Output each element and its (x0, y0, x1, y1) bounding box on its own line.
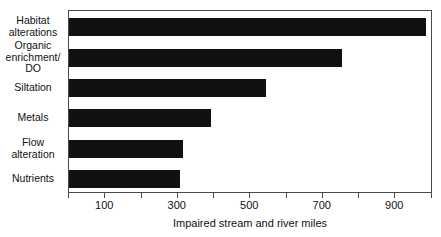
bar-nutrients (69, 170, 180, 188)
category-label-organic-enrichment-do: Organic enrichment/ DO (0, 40, 66, 75)
bar-organic-enrichment-do (69, 49, 342, 67)
x-axis-tick-label: 100 (84, 199, 124, 212)
x-axis-tick (68, 193, 69, 198)
x-axis-tick (213, 193, 214, 198)
x-axis-tick (358, 193, 359, 198)
x-axis-tick (322, 193, 323, 198)
x-axis-tick (431, 193, 432, 198)
x-axis-tick (141, 193, 142, 198)
category-label-habitat-alterations: Habitat alterations (0, 15, 66, 38)
bar-habitat-alterations (69, 18, 426, 36)
x-axis-title: Impaired stream and river miles (68, 217, 432, 230)
x-axis-tick (394, 193, 395, 198)
bar-chart: Habitat alterations Organic enrichment/ … (0, 0, 441, 237)
x-axis-tick-label: 700 (302, 199, 342, 212)
x-axis-tick (249, 193, 250, 198)
x-axis-tick (177, 193, 178, 198)
x-axis-tick-label: 900 (374, 199, 414, 212)
x-axis-tick-label: 300 (157, 199, 197, 212)
bar-flow-alteration (69, 140, 183, 158)
x-axis-tick-label: 500 (229, 199, 269, 212)
x-axis-tick (286, 193, 287, 198)
category-label-siltation: Siltation (0, 82, 66, 94)
category-label-flow-alteration: Flow alteration (0, 137, 66, 160)
x-axis-tick-labels: 100300500700900 (0, 199, 441, 215)
category-label-nutrients: Nutrients (0, 173, 66, 185)
bar-siltation (69, 79, 266, 97)
x-axis-tick (104, 193, 105, 198)
category-label-metals: Metals (0, 112, 66, 124)
bars-layer (68, 10, 432, 193)
bar-metals (69, 109, 211, 127)
